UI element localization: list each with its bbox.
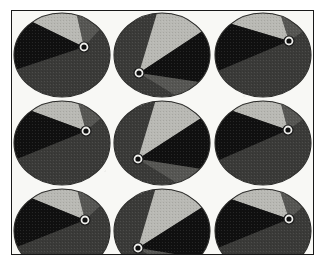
disk-r3c3[interactable] [213,187,313,255]
disk-cell[interactable] [213,11,313,99]
pivot-hole-icon [137,70,142,75]
disk-cell[interactable] [213,99,313,187]
halftone-grain [14,189,110,255]
disk-r3c1[interactable] [12,187,112,255]
pivot-hole-icon [286,216,291,221]
disk-body [14,189,110,255]
disk-cell[interactable] [12,99,112,187]
halftone-grain [114,189,210,255]
disk-cell[interactable] [213,187,313,255]
figure-plate-border [11,10,314,255]
disk-cell[interactable] [112,99,212,187]
pivot-hole-icon [84,128,89,133]
disk-r1c2[interactable] [112,11,212,99]
disk-cell[interactable] [112,187,212,255]
pivot-hole-icon [82,44,87,49]
pivot-hole-icon [83,217,88,222]
disk-r1c3[interactable] [213,11,313,99]
disk-r2c3[interactable] [213,99,313,187]
pivot-hole-icon [136,156,141,161]
disk-cell[interactable] [12,187,112,255]
pivot-hole-icon [285,127,290,132]
disk-r3c2[interactable] [112,187,212,255]
figure-root [0,0,328,267]
disk-r2c1[interactable] [12,99,112,187]
halftone-grain [215,189,311,255]
disk-r1c1[interactable] [12,11,112,99]
disk-body [114,189,210,255]
pivot-hole-icon [136,245,141,250]
disk-r2c2[interactable] [112,99,212,187]
disk-grid [12,11,313,254]
disk-cell[interactable] [112,11,212,99]
disk-cell[interactable] [12,11,112,99]
disk-body [215,189,311,255]
pivot-hole-icon [286,38,291,43]
